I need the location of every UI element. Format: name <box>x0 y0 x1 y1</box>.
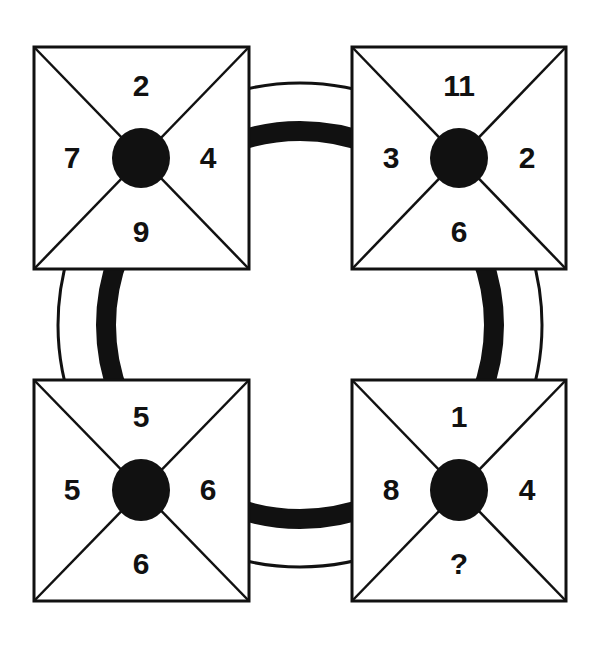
box-bottom-left: 5 6 6 5 <box>34 380 249 601</box>
value-left: 8 <box>383 473 400 506</box>
value-left: 3 <box>383 141 400 174</box>
box-top-right: 11 2 6 3 <box>352 47 566 269</box>
value-bottom: 6 <box>451 215 468 248</box>
center-dot <box>430 459 488 521</box>
value-right: 4 <box>519 473 536 506</box>
center-dot <box>430 128 488 188</box>
value-left: 5 <box>64 473 81 506</box>
value-left: 7 <box>64 141 81 174</box>
value-right: 6 <box>200 473 217 506</box>
value-bottom-unknown: ? <box>450 547 468 580</box>
value-top: 1 <box>451 400 468 433</box>
center-dot <box>112 459 170 521</box>
value-bottom: 9 <box>133 215 150 248</box>
center-dot <box>112 128 170 188</box>
value-top: 5 <box>133 400 150 433</box>
puzzle-diagram: 2 4 9 7 11 2 6 3 5 6 6 5 1 4 ? 8 <box>0 0 604 645</box>
value-top: 2 <box>133 69 150 102</box>
value-right: 4 <box>200 141 217 174</box>
value-bottom: 6 <box>133 547 150 580</box>
value-top: 11 <box>443 69 475 102</box>
value-right: 2 <box>519 141 536 174</box>
box-bottom-right: 1 4 ? 8 <box>352 380 566 601</box>
box-top-left: 2 4 9 7 <box>34 47 249 269</box>
